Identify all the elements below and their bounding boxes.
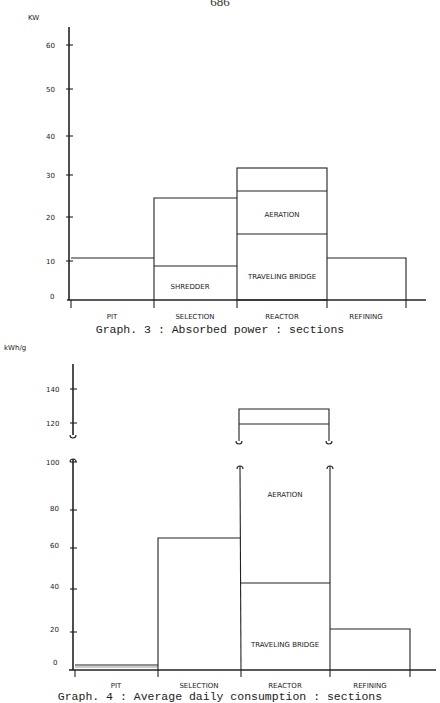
svg-text:40: 40 — [50, 583, 59, 591]
svg-text:20: 20 — [50, 626, 59, 634]
graph4-unit: kWh/g — [4, 344, 26, 352]
svg-text:40: 40 — [46, 133, 55, 141]
svg-text:140: 140 — [46, 386, 59, 394]
svg-text:REACTOR: REACTOR — [265, 313, 299, 321]
svg-text:50: 50 — [46, 86, 55, 94]
svg-text:120: 120 — [46, 420, 59, 428]
graph3-unit: KW — [28, 14, 39, 22]
svg-text:60: 60 — [50, 542, 59, 550]
svg-text:100: 100 — [46, 459, 59, 467]
graph4-caption: Graph. 4 : Average daily consumption : s… — [0, 690, 440, 703]
aeration-label: AERATION — [267, 491, 302, 499]
bridge-label: TRAVELING BRIDGE — [250, 641, 319, 649]
svg-text:0: 0 — [53, 659, 57, 667]
aeration-label: AERATION — [264, 211, 299, 219]
svg-text:0: 0 — [50, 293, 54, 301]
svg-text:REFINING: REFINING — [353, 682, 386, 690]
bridge-label: TRAVELING BRIDGE — [247, 273, 316, 281]
graph3-caption: Graph. 3 : Absorbed power : sections — [0, 323, 440, 336]
svg-text:REACTOR: REACTOR — [268, 682, 302, 690]
shredder-label: SHREDDER — [170, 283, 209, 291]
svg-text:SELECTION: SELECTION — [175, 313, 214, 321]
charts: KW 60 50 40 30 20 10 0 PIT SELECTION REA… — [0, 0, 440, 703]
svg-text:SELECTION: SELECTION — [179, 682, 218, 690]
svg-text:60: 60 — [46, 42, 55, 50]
svg-text:80: 80 — [50, 505, 59, 513]
graph4 — [69, 364, 436, 677]
svg-text:20: 20 — [46, 214, 55, 222]
svg-text:PIT: PIT — [111, 682, 122, 690]
graph3 — [66, 27, 426, 308]
svg-text:30: 30 — [46, 172, 55, 180]
svg-text:PIT: PIT — [107, 313, 118, 321]
svg-text:REFINING: REFINING — [349, 313, 382, 321]
svg-text:10: 10 — [46, 258, 55, 266]
